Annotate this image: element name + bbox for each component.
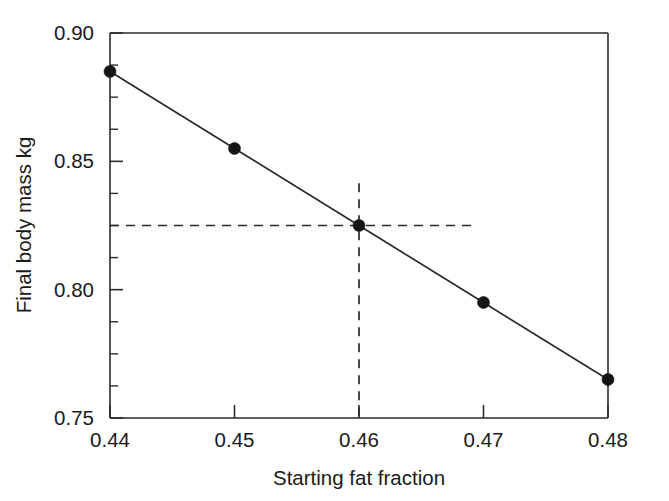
- y-tick-label: 0.85: [54, 149, 94, 172]
- data-point-marker: [229, 143, 241, 155]
- y-axis-title: Final body mass kg: [12, 137, 35, 314]
- chart-figure: 0.750.800.850.90 0.440.450.460.470.48 St…: [0, 0, 669, 501]
- line-chart: 0.750.800.850.90 0.440.450.460.470.48 St…: [0, 0, 669, 501]
- data-point-marker: [353, 220, 365, 232]
- y-tick-label: 0.80: [54, 278, 94, 301]
- data-point-marker: [478, 297, 490, 309]
- y-tick-label: 0.75: [54, 406, 94, 429]
- x-axis-title: Starting fat fraction: [273, 466, 445, 489]
- y-tick-label: 0.90: [54, 21, 94, 44]
- chart-background: [0, 0, 669, 501]
- x-tick-label: 0.46: [339, 428, 379, 451]
- data-point-marker: [104, 66, 116, 78]
- x-tick-label: 0.44: [90, 428, 130, 451]
- data-point-marker: [602, 374, 614, 386]
- x-tick-label: 0.47: [464, 428, 504, 451]
- x-tick-label: 0.45: [215, 428, 255, 451]
- x-tick-label: 0.48: [588, 428, 628, 451]
